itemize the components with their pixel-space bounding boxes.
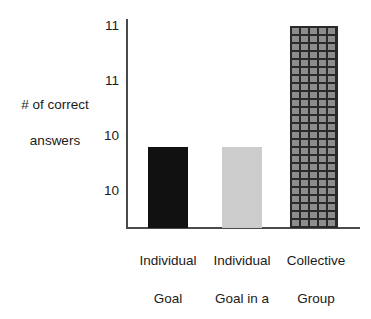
plot-area — [128, 19, 360, 228]
bar-collective-group-goal[interactable] — [290, 26, 338, 228]
bar-chart: # of correct answers 11 11 10 10 Individ… — [0, 0, 371, 319]
x-label-collective-group-goal: Collective Group Goal — [272, 232, 360, 319]
bar-individual-goal-when-alone[interactable] — [148, 147, 188, 228]
y-axis-tick-labels: 11 11 10 10 — [0, 0, 119, 319]
bar-individual-goal-in-a-group[interactable] — [222, 147, 262, 228]
x-axis-category-labels: Individual Goal when Alone Individual Go… — [128, 232, 360, 319]
y-tick-label-2: 11 — [0, 74, 119, 88]
x-label-3-line-1: Collective — [272, 251, 360, 270]
y-tick-label-1: 11 — [0, 19, 119, 33]
y-tick-label-3: 10 — [0, 129, 119, 143]
x-label-3-line-2: Group — [272, 289, 360, 308]
y-tick-label-4: 10 — [0, 184, 119, 198]
